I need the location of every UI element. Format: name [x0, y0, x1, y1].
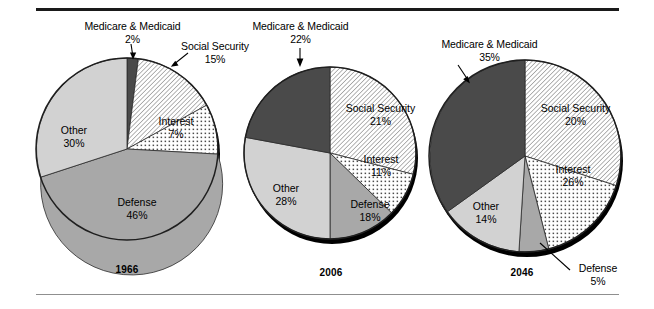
pie-2006-interest-name: Interest	[348, 153, 414, 166]
pie-2006-social-callout: Social Security 21%	[333, 102, 428, 127]
pie-1966-other-callout: Other 30%	[43, 124, 105, 149]
pie-1966-year-label: 1966	[92, 264, 162, 275]
pie-2046-interest-name: Interest	[539, 163, 607, 176]
pie-2006-other-callout: Other 28%	[255, 182, 317, 207]
pie-2046-interest-callout: Interest 26%	[539, 163, 607, 188]
pie-2006-other-name: Other	[255, 182, 317, 195]
pie-2006-medicare-callout: Medicare & Medicaid 22%	[198, 20, 403, 45]
pie-1966-other-value: 30%	[43, 137, 105, 150]
pie-chart-1966	[36, 44, 223, 275]
pie-1966-defense-callout: Defense 46%	[98, 196, 176, 221]
pie-2006-social-name: Social Security	[333, 102, 428, 115]
pie-2006-medicare-name: Medicare & Medicaid	[198, 20, 403, 33]
pie-1966-defense-name: Defense	[98, 196, 176, 209]
pie-2006-defense-name: Defense	[335, 198, 405, 211]
pie-2006-defense-callout: Defense 18%	[335, 198, 405, 223]
pie-2046-other-callout: Other 14%	[455, 200, 517, 225]
pie-2046-other-value: 14%	[455, 213, 517, 226]
pie-1966-social-value: 15%	[150, 53, 280, 66]
pie-2046-medicare-callout: Medicare & Medicaid 35%	[397, 38, 582, 63]
pie-2006-medicare-value: 22%	[198, 33, 403, 46]
pie-1966-interest-callout: Interest 7%	[136, 115, 216, 140]
pie-2046-defense-callout: Defense 5%	[558, 262, 638, 287]
pie-1966-other-name: Other	[43, 124, 105, 137]
pie-2006-year-label: 2006	[296, 267, 366, 278]
pie-2006-social-value: 21%	[333, 115, 428, 128]
pie-2046-medicare-value: 35%	[397, 51, 582, 64]
pie-2046-year-label: 2046	[487, 267, 557, 278]
pie-2006-medicare-arrowhead-icon	[297, 59, 304, 68]
pie-2046-interest-value: 26%	[539, 176, 607, 189]
figure-canvas: Medicare & Medicaid 2% Social Security 1…	[0, 0, 654, 309]
pie-2046-social-value: 20%	[528, 115, 623, 128]
pie-2006-interest-callout: Interest 11%	[348, 153, 414, 178]
pie-1966-defense-value: 46%	[98, 209, 176, 222]
pie-2046-defense-value: 5%	[558, 275, 638, 288]
pie-1966-interest-name: Interest	[136, 115, 216, 128]
pie-2006-other-value: 28%	[255, 195, 317, 208]
pie-2006-interest-value: 11%	[348, 166, 414, 179]
pie-2046-social-callout: Social Security 20%	[528, 102, 623, 127]
pie-2046-other-name: Other	[455, 200, 517, 213]
pie-1966-interest-value: 7%	[136, 128, 216, 141]
pie-2046-social-name: Social Security	[528, 102, 623, 115]
pie-2046-defense-name: Defense	[558, 262, 638, 275]
pie-2046-medicare-name: Medicare & Medicaid	[397, 38, 582, 51]
pie-2006-defense-value: 18%	[335, 211, 405, 224]
